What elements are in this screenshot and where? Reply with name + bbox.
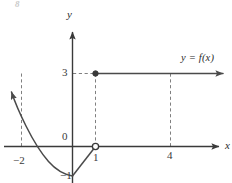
function-curve bbox=[12, 74, 224, 177]
open-endpoint-marker bbox=[92, 143, 98, 149]
closed-endpoint-marker bbox=[93, 71, 98, 76]
x-tick-label-neg2: −2 bbox=[13, 155, 25, 166]
guide-lines bbox=[22, 74, 171, 147]
y-axis-label: y bbox=[67, 9, 72, 20]
function-graph-figure: 8 y x 0 3 −1 −2 1 4 y = f(x) bbox=[0, 0, 232, 183]
y-tick-label-neg1: −1 bbox=[60, 170, 72, 181]
x-tick-label-1: 1 bbox=[93, 152, 99, 163]
origin-label: 0 bbox=[62, 131, 68, 142]
x-tick-label-4: 4 bbox=[167, 150, 173, 161]
y-tick-label-3: 3 bbox=[62, 67, 68, 78]
curve-equation-label: y = f(x) bbox=[181, 53, 214, 64]
graph-canvas bbox=[0, 0, 232, 183]
x-axis-label: x bbox=[225, 140, 230, 151]
corner-figure-mark: 8 bbox=[15, 0, 20, 9]
